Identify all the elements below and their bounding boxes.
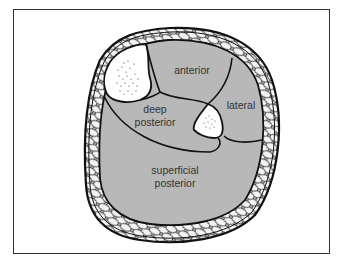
label-deep-posterior-2: posterior [135,116,176,128]
label-anterior: anterior [174,64,210,76]
label-lateral: lateral [227,99,256,111]
label-deep-posterior-1: deep [143,103,167,115]
leg-cross-section-diagram: anterior lateral deep posterior superfic… [0,0,340,265]
label-superficial-posterior-1: superficial [151,164,198,176]
label-superficial-posterior-2: posterior [155,177,196,189]
